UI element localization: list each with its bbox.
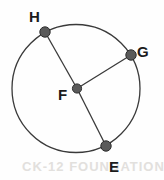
point-label-H: H: [29, 8, 40, 25]
radius-segment-FG: [77, 55, 131, 89]
point-label-F: F: [58, 86, 67, 103]
point-H-dot: [40, 27, 50, 37]
circle-diagram-canvas: CK-12 FOUNDATION F H G E: [0, 0, 164, 180]
radius-segment-FH: [45, 32, 77, 89]
point-label-G: G: [137, 43, 149, 60]
point-label-E: E: [109, 158, 119, 175]
radius-segment-FE: [77, 89, 106, 147]
point-F-dot: [72, 84, 81, 93]
watermark-text: CK-12 FOUNDATION: [22, 159, 164, 174]
geometry-figure: CK-12 FOUNDATION F H G E: [0, 0, 164, 180]
point-G-dot: [126, 50, 136, 60]
point-E-dot: [101, 141, 111, 151]
